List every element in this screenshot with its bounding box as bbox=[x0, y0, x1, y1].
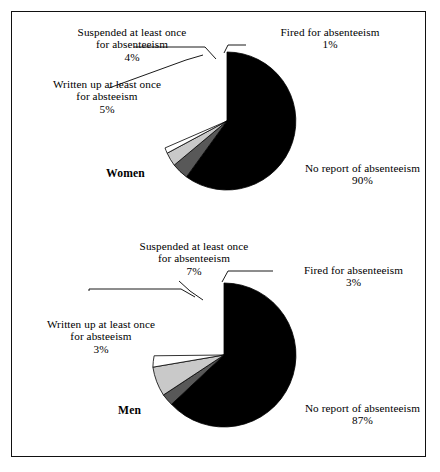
men-label-fired: Fired for absenteeism 3% bbox=[276, 264, 431, 289]
men-noreport-line1: No report of absenteeism bbox=[305, 402, 420, 414]
women-fired-pct: 1% bbox=[250, 38, 410, 50]
men-written-line1: Written up at least once bbox=[47, 318, 155, 330]
women-written-line2: for absteeism bbox=[76, 90, 137, 102]
men-fired-line1: Fired for absenteeism bbox=[304, 264, 403, 276]
women-label-no-report: No report of absenteeism 90% bbox=[290, 162, 435, 187]
men-label-suspended: Suspended at least once for absenteeism … bbox=[104, 240, 284, 277]
men-group-title: Men bbox=[118, 404, 141, 417]
men-suspended-line1: Suspended at least once bbox=[140, 240, 249, 252]
women-suspended-line1: Suspended at least once bbox=[78, 26, 187, 38]
women-noreport-line1: No report of absenteeism bbox=[305, 162, 420, 174]
women-label-fired: Fired for absenteeism 1% bbox=[250, 26, 410, 51]
men-label-written-up: Written up at least once for absteeism 3… bbox=[17, 318, 185, 355]
men-suspended-line2: for absenteeism bbox=[158, 252, 230, 264]
absenteeism-pie-figure: Suspended at least once for absenteeism … bbox=[0, 0, 440, 472]
women-label-suspended: Suspended at least once for absenteeism … bbox=[42, 26, 222, 63]
women-written-pct: 5% bbox=[22, 103, 192, 115]
women-fired-line1: Fired for absenteeism bbox=[280, 26, 379, 38]
men-suspended-pct: 7% bbox=[104, 265, 284, 277]
women-group-title: Women bbox=[106, 167, 145, 180]
men-noreport-pct: 87% bbox=[290, 414, 435, 426]
men-written-line2: for absteeism bbox=[70, 330, 131, 342]
men-written-pct: 3% bbox=[17, 343, 185, 355]
men-label-no-report: No report of absenteeism 87% bbox=[290, 402, 435, 427]
men-fired-pct: 3% bbox=[276, 276, 431, 288]
women-noreport-pct: 90% bbox=[290, 174, 435, 186]
women-suspended-line2: for absenteeism bbox=[96, 38, 168, 50]
women-suspended-pct: 4% bbox=[42, 51, 222, 63]
women-written-line1: Written up at least once bbox=[53, 78, 161, 90]
women-label-written-up: Written up at least once for absteeism 5… bbox=[22, 78, 192, 115]
